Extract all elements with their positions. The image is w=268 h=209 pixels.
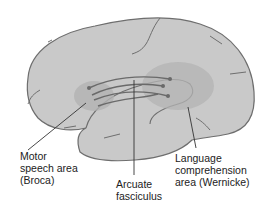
arcuate-label-line: fasciculus (116, 190, 162, 202)
wernicke-label: Language comprehension area (Wernicke) (175, 152, 250, 188)
wernicke-label-line: area (Wernicke) (175, 176, 250, 188)
broca-label-line: Motor (20, 150, 78, 162)
wernicke-label-line: comprehension (175, 164, 250, 176)
wernicke-area (142, 62, 214, 110)
brain-hemisphere (27, 18, 254, 161)
wernicke-label-line: Language (175, 152, 250, 164)
broca-label-line: speech area (20, 162, 78, 174)
broca-label-line: (Broca) (20, 174, 78, 186)
arcuate-label-line: Arcuate (116, 178, 162, 190)
broca-label: Motor speech area (Broca) (20, 150, 78, 186)
arcuate-label: Arcuate fasciculus (116, 178, 162, 202)
